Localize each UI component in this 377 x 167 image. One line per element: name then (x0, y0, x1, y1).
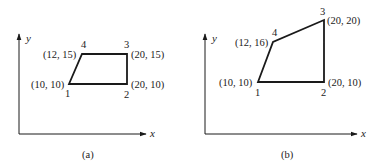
node-4-number: 4 (81, 39, 87, 50)
y-axis-label: y (211, 32, 217, 44)
node-3-number: 3 (320, 6, 325, 17)
node-1-number: 1 (65, 88, 70, 99)
panel-a-caption: (a) (82, 149, 94, 161)
node-3-coord-label: (20, 15) (131, 49, 165, 61)
y-axis-label: y (25, 32, 31, 44)
node-1-coord-label: (10, 10) (219, 77, 253, 89)
node-2-coord-label: (20, 10) (131, 79, 165, 91)
panel-b: y x (10, 10) 1 (20, 10) 2 (20, 20) 3 (12… (205, 6, 366, 161)
node-2-coord-label: (20, 10) (328, 77, 362, 89)
node-2-number: 2 (124, 89, 129, 100)
x-axis-label: x (149, 127, 155, 139)
element-outline (258, 20, 324, 82)
node-3-coord-label: (20, 20) (327, 15, 361, 27)
node-4-number: 4 (272, 27, 278, 38)
quadrilateral-element-figure: y x (10, 10) 1 (20, 10) 2 (20, 15) 3 (12… (0, 0, 377, 167)
node-1-number: 1 (255, 87, 260, 98)
node-4-coord-label: (12, 15) (43, 49, 77, 61)
panel-a: y x (10, 10) 1 (20, 10) 2 (20, 15) 3 (12… (19, 32, 165, 161)
element-outline (69, 54, 127, 84)
node-3-number: 3 (124, 39, 129, 50)
node-2-number: 2 (321, 87, 326, 98)
panel-b-caption: (b) (281, 149, 294, 161)
x-axis-label: x (360, 127, 366, 139)
node-1-coord-label: (10, 10) (31, 79, 65, 91)
node-4-coord-label: (12, 16) (235, 37, 269, 49)
